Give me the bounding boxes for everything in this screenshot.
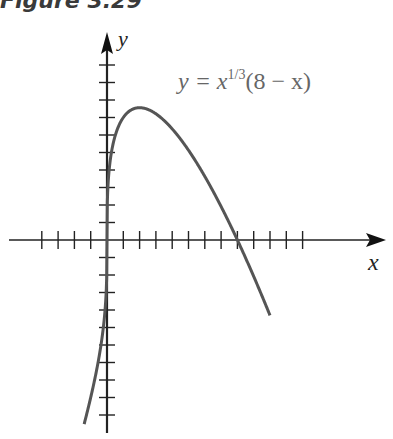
x-axis-label: x [367, 249, 379, 275]
equation-annotation: y = x1/3(8 − x) [176, 67, 311, 94]
function-plot: y x y = x1/3(8 − x) [0, 0, 393, 439]
function-curve [84, 108, 270, 424]
y-axis-label: y [116, 26, 128, 51]
